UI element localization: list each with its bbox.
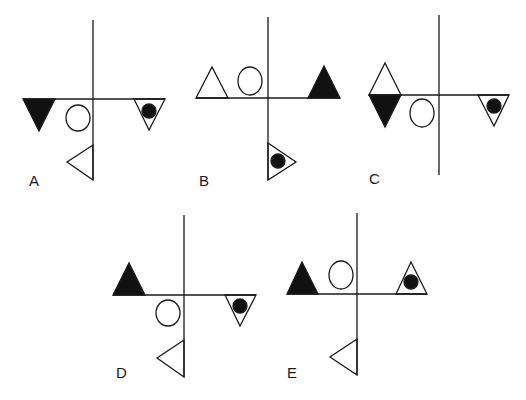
option-label-a: A — [29, 172, 39, 189]
outline-up-triangle-icon — [369, 63, 401, 95]
filled-up-triangle-icon — [308, 66, 340, 98]
figure-d[interactable] — [113, 215, 256, 377]
circle-icon — [238, 67, 262, 95]
puzzle-canvas: A B C D E — [0, 0, 526, 400]
circle-icon — [329, 261, 353, 289]
black-dot-icon — [487, 99, 501, 113]
left-pointing-triangle-icon — [157, 340, 184, 377]
option-label-e: E — [287, 364, 297, 381]
circle-icon — [66, 105, 90, 131]
circle-icon — [156, 300, 180, 326]
figure-b[interactable] — [196, 17, 340, 180]
outline-up-triangle-icon — [196, 67, 228, 98]
filled-up-triangle-icon — [113, 263, 145, 295]
option-label-d: D — [116, 364, 127, 381]
option-label-b: B — [199, 172, 209, 189]
circle-icon — [410, 99, 434, 127]
option-label-c: C — [369, 170, 380, 187]
figure-a[interactable] — [23, 20, 165, 180]
black-dot-icon — [142, 104, 156, 118]
filled-down-triangle-icon — [23, 99, 55, 131]
black-dot-icon — [271, 154, 285, 168]
left-pointing-triangle-icon — [330, 339, 357, 375]
filled-down-triangle-icon — [369, 95, 401, 127]
left-pointing-triangle-icon — [67, 145, 93, 180]
figure-e[interactable] — [287, 213, 427, 375]
black-dot-icon — [404, 275, 418, 289]
black-dot-icon — [233, 299, 247, 313]
filled-up-triangle-icon — [287, 262, 318, 294]
figure-c[interactable] — [369, 15, 509, 175]
